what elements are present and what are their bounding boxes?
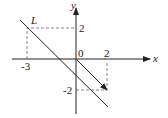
tick-x-pos: 2 bbox=[104, 48, 110, 59]
origin-label: 0 bbox=[78, 48, 84, 59]
y-axis-label: y bbox=[71, 0, 76, 11]
tick-y-pos: 2 bbox=[79, 23, 85, 34]
diagram-graphics bbox=[0, 0, 168, 118]
vector-arrow bbox=[77, 60, 107, 90]
tick-y-neg: -2 bbox=[63, 85, 72, 96]
x-axis-label: x bbox=[153, 53, 158, 64]
tick-x-neg: -3 bbox=[21, 61, 30, 72]
coordinate-diagram: y x L 0 2 -3 2 -2 bbox=[0, 0, 168, 118]
line-label: L bbox=[31, 15, 37, 26]
dashed-guide-left bbox=[27, 28, 76, 59]
